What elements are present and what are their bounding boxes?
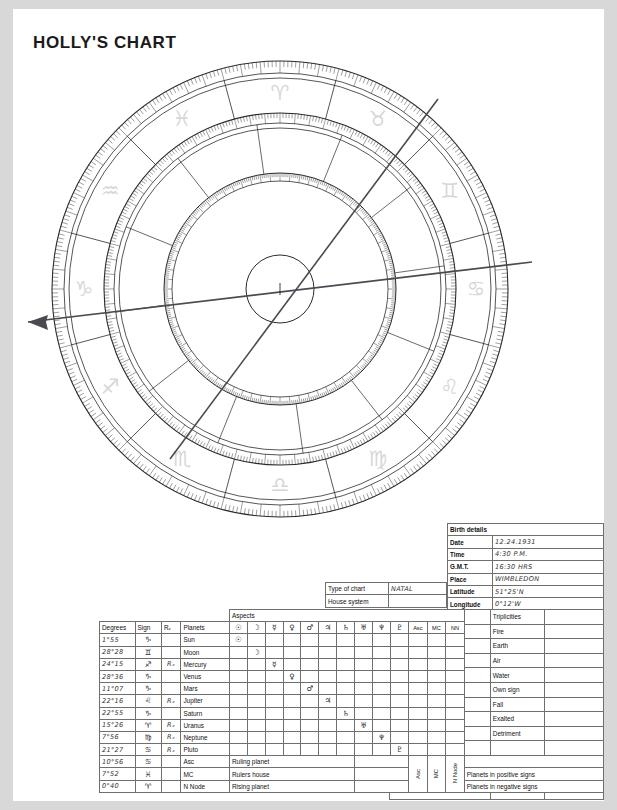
planet-rx-neptune[interactable]: Rₓ (161, 731, 181, 743)
aspect-cell-saturn-3[interactable] (283, 707, 301, 719)
angle-note-value-nnode[interactable] (355, 780, 409, 792)
aspect-cell-venus-4[interactable] (301, 670, 319, 682)
aspect-cell-venus-7[interactable] (355, 670, 373, 682)
planet-degrees-uranus[interactable]: 15°26 (100, 719, 136, 731)
aspect-cell-moon-7[interactable] (355, 646, 373, 658)
aspect-cell-neptune-3[interactable] (283, 731, 301, 743)
aspect-cell-pluto-3[interactable] (283, 744, 301, 756)
aspect-cell-saturn-6[interactable]: ♄ (337, 707, 355, 719)
angle-rx-asc[interactable] (161, 756, 181, 768)
aspect-cell-mars-8[interactable] (373, 683, 391, 695)
aspect-cell-neptune-6[interactable] (337, 731, 355, 743)
aspect-cell-sun-7[interactable] (355, 634, 373, 646)
aspect-cell-sun-1[interactable] (247, 634, 265, 646)
aspect-cell-saturn-mc[interactable] (427, 707, 446, 719)
aspect-cell-sun-9[interactable] (391, 634, 409, 646)
aspect-cell-mercury-9[interactable] (391, 658, 409, 670)
aspect-cell-mercury-2[interactable]: ☿ (265, 658, 283, 670)
aspect-cell-moon-1[interactable]: ☽ (247, 646, 265, 658)
aspect-cell-neptune-2[interactable] (265, 731, 283, 743)
aspect-cell-venus-mc[interactable] (427, 670, 446, 682)
aspect-cell-uranus-mc[interactable] (427, 719, 446, 731)
aspect-cell-moon-mc[interactable] (427, 646, 446, 658)
aspect-cell-uranus-8[interactable] (373, 719, 391, 731)
aspect-cell-moon-5[interactable] (319, 646, 337, 658)
aspect-cell-mars-5[interactable] (319, 683, 337, 695)
aspect-cell-uranus-5[interactable] (319, 719, 337, 731)
aspect-cell-uranus-2[interactable] (265, 719, 283, 731)
aspect-cell-jupiter-5[interactable]: ♃ (319, 695, 337, 707)
aspect-cell-venus-5[interactable] (319, 670, 337, 682)
aspect-cell-mars-mc[interactable] (427, 683, 446, 695)
planet-rx-mars[interactable] (161, 683, 181, 695)
aspect-cell-sun-asc[interactable] (408, 634, 427, 646)
aspect-cell-sun-8[interactable] (373, 634, 391, 646)
aspect-cell-pluto-asc[interactable] (408, 744, 427, 756)
planet-sign-sun[interactable]: ♑ (135, 634, 161, 646)
angle-degrees-nnode[interactable]: 0°40 (100, 780, 136, 792)
aspect-cell-neptune-7[interactable] (355, 731, 373, 743)
aspect-cell-venus-9[interactable] (391, 670, 409, 682)
aspect-cell-mercury-8[interactable] (373, 658, 391, 670)
aspect-cell-jupiter-2[interactable] (265, 695, 283, 707)
aspect-cell-moon-3[interactable] (283, 646, 301, 658)
aspect-cell-saturn-0[interactable] (229, 707, 247, 719)
aspect-cell-pluto-mc[interactable] (427, 744, 446, 756)
planet-degrees-moon[interactable]: 28°28 (100, 646, 136, 658)
aspect-cell-mars-1[interactable] (247, 683, 265, 695)
aspect-cell-moon-4[interactable] (301, 646, 319, 658)
aspect-cell-mercury-asc[interactable] (408, 658, 427, 670)
aspect-cell-mars-9[interactable] (391, 683, 409, 695)
angle-note-value-asc[interactable] (355, 756, 409, 768)
aspect-cell-neptune-8[interactable]: ♆ (373, 731, 391, 743)
aspect-cell-sun-6[interactable] (337, 634, 355, 646)
aspect-cell-uranus-3[interactable] (283, 719, 301, 731)
aspect-cell-venus-8[interactable] (373, 670, 391, 682)
aspect-cell-mars-nn[interactable] (446, 683, 465, 695)
aspect-cell-mars-7[interactable] (355, 683, 373, 695)
aspect-cell-pluto-8[interactable] (373, 744, 391, 756)
angle-degrees-mc[interactable]: 7°52 (100, 768, 136, 780)
aspect-cell-neptune-asc[interactable] (408, 731, 427, 743)
aspect-cell-sun-2[interactable] (265, 634, 283, 646)
aspect-cell-mars-6[interactable] (337, 683, 355, 695)
birth-field-value-date[interactable]: 12.24.1931 (493, 536, 604, 548)
aspect-cell-moon-0[interactable] (229, 646, 247, 658)
aspect-cell-jupiter-6[interactable] (337, 695, 355, 707)
aspect-cell-pluto-1[interactable] (247, 744, 265, 756)
planet-sign-moon[interactable]: ♊ (135, 646, 161, 658)
planet-sign-saturn[interactable]: ♑ (135, 707, 161, 719)
planet-rx-uranus[interactable]: Rₓ (161, 719, 181, 731)
angle-degrees-asc[interactable]: 10°56 (100, 756, 136, 768)
planet-sign-jupiter[interactable]: ♌ (135, 695, 161, 707)
aspect-cell-pluto-6[interactable] (337, 744, 355, 756)
planet-rx-venus[interactable] (161, 670, 181, 682)
aspect-cell-jupiter-8[interactable] (373, 695, 391, 707)
aspect-cell-jupiter-mc[interactable] (427, 695, 446, 707)
aspect-cell-uranus-asc[interactable] (408, 719, 427, 731)
aspect-cell-mars-3[interactable] (283, 683, 301, 695)
aspect-cell-venus-3[interactable]: ♀ (283, 670, 301, 682)
aspect-cell-venus-0[interactable] (229, 670, 247, 682)
aspect-cell-neptune-5[interactable] (319, 731, 337, 743)
aspect-cell-moon-2[interactable] (265, 646, 283, 658)
aspect-cell-uranus-6[interactable] (337, 719, 355, 731)
aspect-cell-jupiter-7[interactable] (355, 695, 373, 707)
angle-sign-mc[interactable]: ♓ (135, 768, 161, 780)
aspect-cell-saturn-asc[interactable] (408, 707, 427, 719)
planet-rx-saturn[interactable] (161, 707, 181, 719)
planet-rx-sun[interactable] (161, 634, 181, 646)
angle-sign-nnode[interactable]: ♈ (135, 780, 161, 792)
aspect-cell-mercury-7[interactable] (355, 658, 373, 670)
aspect-cell-saturn-5[interactable] (319, 707, 337, 719)
angle-note-value-mc[interactable] (355, 768, 409, 780)
angle-sign-asc[interactable]: ♋ (135, 756, 161, 768)
aspect-cell-uranus-4[interactable] (301, 719, 319, 731)
aspect-cell-saturn-1[interactable] (247, 707, 265, 719)
planet-degrees-neptune[interactable]: 7°56 (100, 731, 136, 743)
aspect-cell-neptune-nn[interactable] (446, 731, 465, 743)
aspect-cell-neptune-4[interactable] (301, 731, 319, 743)
aspect-cell-mercury-4[interactable] (301, 658, 319, 670)
aspect-cell-sun-mc[interactable] (427, 634, 446, 646)
aspect-cell-venus-2[interactable] (265, 670, 283, 682)
